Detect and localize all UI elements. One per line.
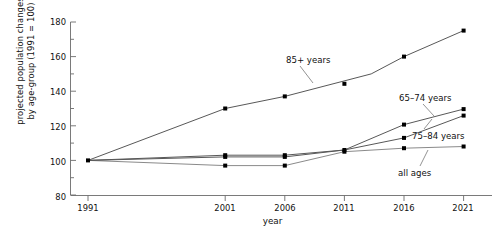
data-point [223, 107, 227, 111]
data-point [283, 153, 287, 157]
data-point [342, 82, 346, 86]
chart-plot-area [0, 0, 501, 243]
axis-lines [71, 22, 493, 196]
series-line-65-74 [88, 109, 464, 160]
data-point [402, 146, 406, 150]
data-point [462, 107, 466, 111]
leader-line-85-plus [300, 66, 313, 83]
data-point [462, 114, 466, 118]
leader-line-all-ages [420, 150, 428, 166]
series-line-all-ages [88, 147, 464, 166]
leader-line-65-74 [423, 104, 434, 116]
data-point [462, 145, 466, 149]
data-point [402, 136, 406, 140]
data-point [402, 123, 406, 127]
data-point [402, 55, 406, 59]
data-point [283, 164, 287, 168]
data-point [223, 164, 227, 168]
data-point [223, 153, 227, 157]
x-axis-ticks [88, 196, 464, 202]
data-point [342, 150, 346, 154]
data-point [86, 158, 90, 162]
y-axis-minor-ticks [71, 39, 75, 177]
data-point [283, 94, 287, 98]
annotation-leader-lines [300, 66, 434, 166]
series-line-75-84 [88, 116, 464, 161]
data-point [462, 29, 466, 33]
series-line-85-plus [88, 31, 464, 161]
chart-figure: projected population changes by age-grou… [0, 0, 501, 243]
